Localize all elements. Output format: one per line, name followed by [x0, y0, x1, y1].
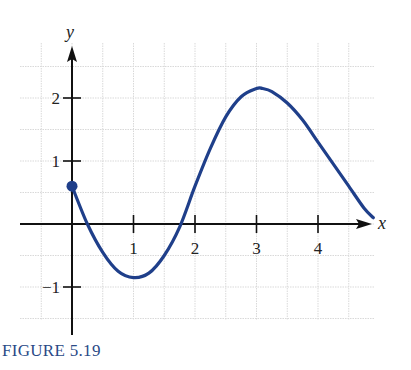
y-axis-label: y: [64, 22, 74, 42]
y-tick-label: −1: [42, 278, 60, 297]
start-point-marker: [67, 181, 78, 192]
x-tick-label: 2: [191, 239, 200, 258]
figure-caption: FIGURE 5.19: [2, 341, 101, 361]
x-axis-label: x: [377, 213, 386, 233]
x-tick-label: 4: [314, 239, 323, 258]
x-tick-label: 3: [252, 239, 261, 258]
y-tick-label: 2: [52, 89, 61, 108]
function-graph: x y 1234−112: [0, 0, 411, 370]
x-tick-label: 1: [129, 239, 138, 258]
y-tick-label: 1: [52, 152, 61, 171]
function-curve: [72, 88, 373, 278]
